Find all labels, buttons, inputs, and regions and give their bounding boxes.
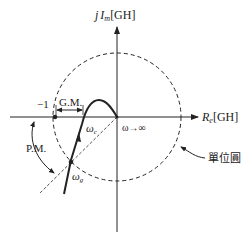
origin-point [116,116,119,119]
phase-margin-label: P.M. [26,142,46,154]
nyquist-diagram: jIm[GH] Re[GH] −1 G.M. P.M. ωc ωg ω→∞ 單位… [0,0,249,234]
curve-direction-arrow-icon [76,132,81,142]
real-axis-label: Re[GH] [201,110,238,125]
unit-circle-pointer [181,147,205,158]
omega-infinity-label: ω→∞ [122,122,146,133]
unit-circle-label: 單位圓 [208,151,241,164]
omega-g-point [69,160,74,165]
minus-one-point [53,115,58,120]
imag-axis-label: jIm[GH] [93,8,135,23]
gain-margin-label: G.M. [59,96,82,108]
omega-g-label: ωg [72,170,84,184]
minus-one-label: −1 [37,98,49,110]
omega-c-label: ωc [86,122,98,136]
